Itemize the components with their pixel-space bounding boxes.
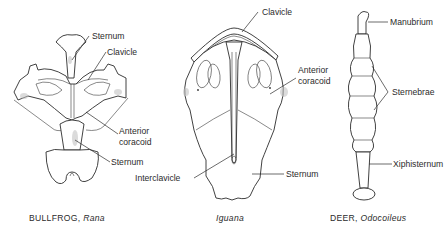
label-deer-sternebrae: Sternebrae — [392, 87, 435, 97]
caption-iguana: Iguana — [216, 213, 244, 223]
label-bullfrog-sternum-lower: Sternum — [111, 157, 143, 167]
label-iguana-anterior: Anterior — [298, 65, 328, 75]
label-bullfrog-sternum-upper: Sternum — [92, 31, 124, 41]
label-deer-xiphisternum: Xiphisternum — [393, 159, 443, 169]
caption-deer-genus: Odocoileus — [360, 213, 406, 223]
caption-deer: DEER, Odocoileus — [330, 213, 406, 223]
caption-bullfrog-common: BULLFROG, — [29, 213, 80, 223]
label-iguana-interclavicle: Interclavicle — [135, 173, 180, 183]
caption-deer-common: DEER, — [330, 213, 358, 223]
diagram-artwork — [0, 0, 447, 236]
label-deer-manubrium: Manubrium — [390, 17, 433, 27]
label-iguana-clavicle: Clavicle — [262, 7, 292, 17]
label-bullfrog-coracoid: coracoid — [119, 137, 151, 147]
label-iguana-coracoid: coracoid — [298, 76, 330, 86]
caption-iguana-genus: Iguana — [216, 213, 244, 223]
label-bullfrog-anterior: Anterior — [119, 126, 149, 136]
label-bullfrog-clavicle: Clavicle — [107, 47, 137, 57]
deer-sternum — [348, 12, 392, 201]
iguana-pectoral-girdle — [183, 12, 296, 200]
caption-bullfrog: BULLFROG, Rana — [29, 213, 105, 223]
label-iguana-sternum: Sternum — [286, 169, 318, 179]
caption-bullfrog-genus: Rana — [83, 213, 105, 223]
